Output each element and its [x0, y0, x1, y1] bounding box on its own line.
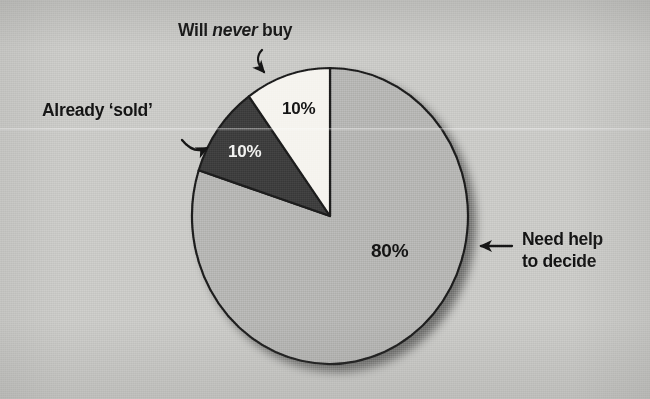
arrow-will-never-buy — [258, 50, 264, 72]
pie-body — [192, 68, 468, 364]
callout-label-already-sold: Already ‘sold’ — [42, 100, 153, 121]
slice-value-already-sold: 10% — [228, 142, 261, 162]
slice-value-need-help-to-decide: 80% — [371, 240, 408, 262]
arrow-already-sold — [182, 140, 207, 150]
pie-chart-figure: Will never buy Already ‘sold’ Need helpt… — [0, 0, 650, 399]
callout-label-need-help-to-decide: Need helpto decide — [522, 228, 640, 272]
slice-value-will-never-buy: 10% — [282, 99, 315, 119]
pie-chart-svg — [0, 0, 650, 399]
callout-label-will-never-buy: Will never buy — [178, 20, 292, 41]
